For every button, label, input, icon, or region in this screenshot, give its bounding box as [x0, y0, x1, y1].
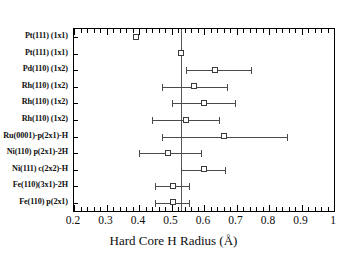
error-bar-cap-high	[189, 183, 190, 190]
x-tick-minor	[152, 207, 153, 211]
x-tick-minor	[113, 29, 114, 33]
data-point-marker	[170, 183, 176, 189]
x-tick-minor	[289, 29, 290, 33]
x-tick-minor	[282, 29, 283, 33]
data-row	[74, 120, 334, 121]
x-tick-major	[302, 205, 303, 211]
error-bar-cap-low	[152, 117, 153, 124]
x-tick-minor	[230, 207, 231, 211]
category-label: Ni(111) c(2x2)-H	[12, 164, 68, 174]
x-tick-minor	[94, 207, 95, 211]
x-tick-major	[269, 29, 270, 35]
x-tick-minor	[308, 207, 309, 211]
data-row	[74, 87, 334, 88]
x-tick-minor	[276, 207, 277, 211]
x-tick-major	[334, 29, 335, 35]
x-tick-minor	[289, 207, 290, 211]
data-point-marker	[133, 34, 139, 40]
x-tick-minor	[321, 207, 322, 211]
data-row	[74, 70, 334, 71]
error-bar-cap-low	[186, 67, 187, 74]
x-tick-minor	[256, 29, 257, 33]
x-tick-minor	[133, 29, 134, 33]
error-bar-cap-low	[155, 183, 156, 190]
x-tick-minor	[120, 29, 121, 33]
data-point-marker	[221, 133, 227, 139]
x-tick-major	[139, 29, 140, 35]
x-tick-minor	[191, 207, 192, 211]
x-tick-minor	[81, 29, 82, 33]
x-tick-minor	[185, 207, 186, 211]
x-tick-minor	[165, 29, 166, 33]
category-label: Pt(111) (1x1)	[25, 31, 68, 41]
x-tick-minor	[191, 29, 192, 33]
plot-area	[73, 28, 335, 212]
error-bar-cap-high	[189, 200, 190, 207]
x-tick-major	[74, 29, 75, 35]
data-point-marker	[201, 100, 207, 106]
x-tick-major	[107, 205, 108, 211]
x-tick-minor	[243, 29, 244, 33]
category-label: Rh(110) (1x2)	[22, 97, 68, 107]
x-tick-minor	[81, 207, 82, 211]
error-bar-cap-high	[235, 100, 236, 107]
x-tick-minor	[224, 29, 225, 33]
x-tick-label: 1	[313, 214, 347, 226]
x-tick-minor	[198, 29, 199, 33]
x-tick-major	[204, 205, 205, 211]
category-label: Pd(110) (1x2)	[23, 64, 68, 74]
error-bar-cap-low	[172, 100, 173, 107]
x-tick-minor	[211, 29, 212, 33]
category-label: Rh(110) (1x2)	[22, 114, 68, 124]
x-tick-minor	[113, 207, 114, 211]
x-tick-minor	[295, 29, 296, 33]
category-label: Pt(111) (1x1)	[25, 48, 68, 58]
data-point-marker	[183, 117, 189, 123]
x-tick-minor	[126, 29, 127, 33]
x-tick-minor	[328, 207, 329, 211]
x-tick-major	[237, 29, 238, 35]
category-label: Ni(110) p(2x1)-2H	[7, 147, 68, 157]
data-row	[74, 37, 334, 38]
x-tick-minor	[243, 207, 244, 211]
x-tick-major	[269, 205, 270, 211]
x-tick-minor	[256, 207, 257, 211]
data-point-marker	[170, 199, 176, 205]
error-bar-cap-high	[219, 117, 220, 124]
error-bar-cap-low	[162, 134, 163, 141]
x-tick-minor	[87, 29, 88, 33]
error-bar	[186, 70, 251, 71]
x-axis-title: Hard Core H Radius (Å)	[0, 233, 347, 249]
x-tick-minor	[224, 207, 225, 211]
x-tick-minor	[100, 207, 101, 211]
category-label: Fe(110)(3x1)-2H	[13, 180, 68, 190]
x-tick-minor	[282, 207, 283, 211]
x-tick-major	[74, 205, 75, 211]
error-bar-cap-high	[201, 150, 202, 157]
x-tick-minor	[152, 29, 153, 33]
data-row	[74, 54, 334, 55]
x-tick-minor	[263, 207, 264, 211]
data-row	[74, 153, 334, 154]
category-labels: Pt(111) (1x1)Pt(111) (1x1)Pd(110) (1x2)R…	[0, 0, 72, 266]
x-tick-minor	[178, 29, 179, 33]
category-label: Fe(110) p(2x1)	[19, 197, 68, 207]
x-tick-minor	[100, 29, 101, 33]
error-bar-cap-low	[162, 84, 163, 91]
x-tick-major	[334, 205, 335, 211]
error-bar-cap-low	[155, 200, 156, 207]
x-tick-minor	[120, 207, 121, 211]
x-tick-major	[172, 205, 173, 211]
x-tick-minor	[328, 29, 329, 33]
x-tick-minor	[94, 29, 95, 33]
chart-figure: Pt(111) (1x1)Pt(111) (1x1)Pd(110) (1x2)R…	[0, 0, 347, 266]
error-bar-cap-low	[139, 150, 140, 157]
category-label: Ru(0001)-p(2x1)-H	[3, 131, 68, 141]
error-bar-cap-high	[227, 84, 228, 91]
error-bar-cap-high	[225, 167, 226, 174]
x-tick-major	[302, 29, 303, 35]
data-row	[74, 170, 334, 171]
data-point-marker	[178, 50, 184, 56]
x-tick-minor	[250, 207, 251, 211]
x-tick-minor	[295, 207, 296, 211]
